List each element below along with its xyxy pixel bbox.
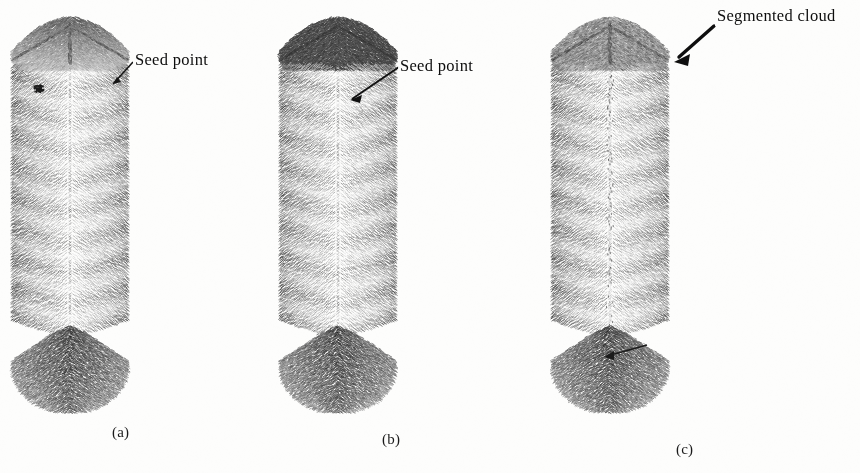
annotation-seed-point-b: Seed point bbox=[398, 56, 475, 76]
annotation-seed-point-a: Seed point bbox=[133, 50, 210, 70]
point-cloud-cylinder-c bbox=[540, 0, 860, 473]
panel-label-a: (a) bbox=[112, 424, 129, 441]
panel-label-b: (b) bbox=[382, 431, 400, 448]
figure-panel-a bbox=[0, 0, 286, 473]
point-cloud-cylinder-a bbox=[0, 0, 286, 473]
figure-area: Seed point Seed point Segmented cloud (a… bbox=[0, 0, 860, 473]
annotation-segmented-cloud-c: Segmented cloud bbox=[715, 6, 838, 26]
figure-panel-c bbox=[540, 0, 826, 473]
panel-label-c: (c) bbox=[676, 441, 693, 458]
